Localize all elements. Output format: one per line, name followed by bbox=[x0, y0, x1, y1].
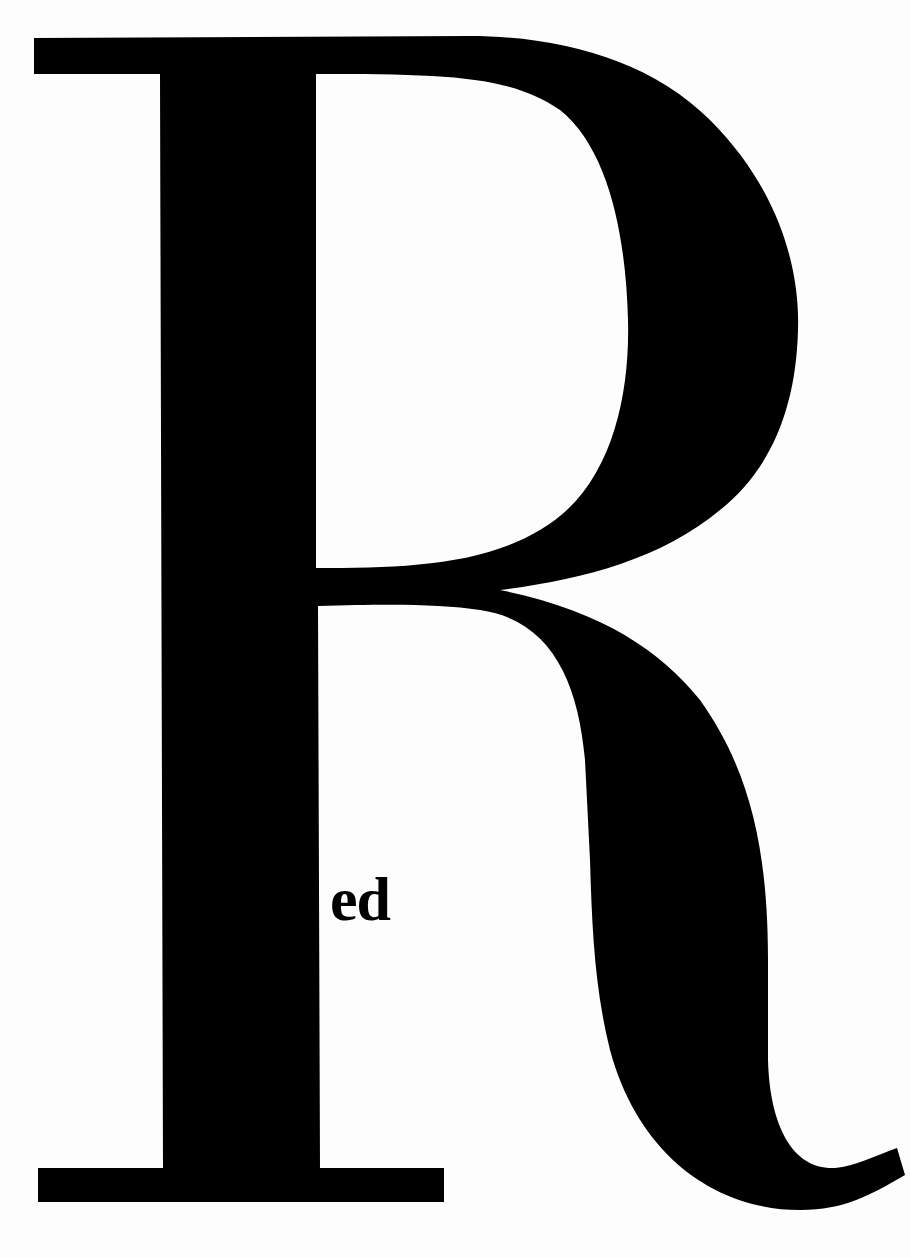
suffix-text: ed bbox=[330, 868, 390, 930]
big-letter-r: R bbox=[0, 0, 910, 1258]
